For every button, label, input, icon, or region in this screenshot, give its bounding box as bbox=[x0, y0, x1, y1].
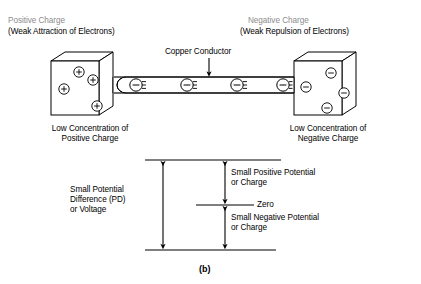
negative-charge-symbol bbox=[339, 88, 349, 98]
positive-charge-symbol bbox=[74, 67, 84, 77]
negative-charge-symbol bbox=[301, 82, 311, 92]
left-cube-positive bbox=[51, 52, 113, 115]
positive-charge-symbol bbox=[92, 101, 102, 111]
figure-b-diagram: Positive Charge (Weak Attraction of Elec… bbox=[0, 0, 421, 284]
diagram-graphics bbox=[0, 0, 421, 284]
potential-scale bbox=[145, 160, 281, 250]
positive-charge-symbol bbox=[88, 75, 98, 85]
negative-charge-symbol bbox=[326, 68, 336, 78]
positive-charge-symbol bbox=[59, 84, 69, 94]
negative-charge-symbol bbox=[322, 103, 332, 113]
